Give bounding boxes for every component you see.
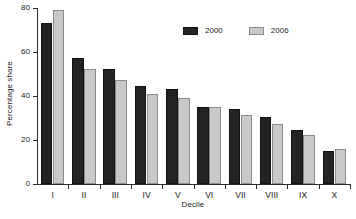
bar-2006-X: [335, 149, 347, 184]
x-axis-tick: [194, 184, 195, 189]
x-axis-label-III: III: [100, 190, 131, 200]
x-axis-label-II: II: [68, 190, 99, 200]
x-axis-label-IX: IX: [287, 190, 318, 200]
bar-2000-IV: [135, 86, 147, 184]
y-axis-tick-label: 0: [8, 179, 30, 188]
bar-2000-I: [41, 23, 53, 184]
x-axis-tick: [68, 184, 69, 189]
bar-2000-VI: [197, 107, 209, 184]
bar-2006-II: [84, 69, 96, 185]
x-axis-label-I: I: [37, 190, 68, 200]
x-axis-tick: [350, 184, 351, 189]
bar-group: [68, 8, 99, 184]
x-axis-title: Decile: [36, 200, 350, 209]
bar-2006-III: [115, 80, 127, 185]
x-axis-tick: [131, 184, 132, 189]
legend-swatch-2000: [183, 27, 198, 35]
bar-2006-IX: [303, 135, 315, 185]
bar-2006-I: [53, 10, 65, 184]
x-axis-label-V: V: [162, 190, 193, 200]
x-axis-tick: [319, 184, 320, 189]
bar-2000-V: [166, 89, 178, 184]
x-axis-label-VII: VII: [225, 190, 256, 200]
y-axis-tick: 0: [33, 184, 38, 185]
bar-group: [131, 8, 162, 184]
legend-label-2000: 2000: [205, 26, 223, 35]
bar-2006-VI: [209, 107, 221, 184]
bar-group: [287, 8, 318, 184]
x-axis-label-X: X: [319, 190, 350, 200]
y-axis-tick-label: 80: [8, 3, 30, 12]
x-axis-tick: [225, 184, 226, 189]
bar-2006-IV: [147, 94, 159, 184]
bar-group: [37, 8, 68, 184]
y-axis-tick-label: 40: [8, 91, 30, 100]
bar-2000-VII: [229, 109, 241, 184]
x-axis-tick: [100, 184, 101, 189]
x-axis-label-VI: VI: [194, 190, 225, 200]
bar-2006-V: [178, 98, 190, 184]
bar-2006-VIII: [272, 124, 284, 185]
chart-legend: 20002006: [183, 26, 289, 35]
x-axis-tick: [162, 184, 163, 189]
x-axis-label-VIII: VIII: [256, 190, 287, 200]
bar-group: [100, 8, 131, 184]
bar-2006-VII: [241, 115, 253, 184]
y-axis-tick-label: 20: [8, 135, 30, 144]
x-axis-label-IV: IV: [131, 190, 162, 200]
bar-2000-II: [72, 58, 84, 185]
legend-item-2006: 2006: [249, 26, 289, 35]
bar-2000-X: [323, 151, 335, 184]
legend-label-2006: 2006: [271, 26, 289, 35]
y-axis-tick-label: 60: [8, 47, 30, 56]
legend-item-2000: 2000: [183, 26, 223, 35]
x-axis-tick: [287, 184, 288, 189]
bar-chart-figure: Percentage share 020406080 IIIIIIIVVVIVI…: [0, 0, 356, 219]
x-axis-tick: [256, 184, 257, 189]
legend-swatch-2006: [249, 27, 264, 35]
bar-group: [319, 8, 350, 184]
bar-2000-III: [103, 69, 115, 185]
bar-2000-IX: [291, 130, 303, 184]
bar-2000-VIII: [260, 117, 272, 184]
